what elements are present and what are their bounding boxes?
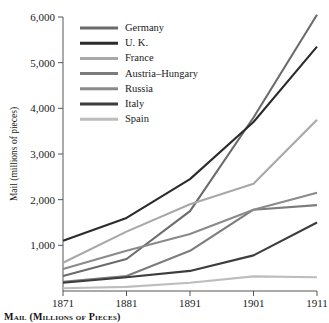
series-line-italy: [63, 223, 317, 283]
chart-figure: 1,0002,0003,0004,0005,0006,0001871188118…: [0, 0, 329, 323]
x-tick-label: 1871: [52, 297, 74, 309]
x-tick-label: 1911: [306, 297, 328, 309]
series-line-germany: [63, 15, 317, 276]
legend-label: Russia: [125, 83, 153, 94]
figure-caption: Mail (Millions of Pieces): [4, 311, 324, 322]
y-axis-title: Mail (millions of pieces): [9, 107, 20, 201]
legend-label: Austria–Hungary: [125, 68, 199, 79]
y-tick-label: 4,000: [30, 102, 55, 114]
legend-label: France: [125, 52, 154, 63]
y-tick-label: 6,000: [30, 11, 55, 23]
x-tick-label: 1891: [179, 297, 201, 309]
x-tick-label: 1881: [116, 297, 138, 309]
x-tick-label: 1901: [243, 297, 265, 309]
y-tick-label: 3,000: [30, 148, 55, 160]
legend-label: Germany: [125, 22, 165, 33]
legend-label: U. K.: [125, 37, 148, 48]
y-tick-label: 5,000: [30, 57, 55, 69]
legend-label: Italy: [125, 98, 145, 109]
line-chart: 1,0002,0003,0004,0005,0006,0001871188118…: [0, 0, 329, 323]
y-tick-label: 2,000: [30, 194, 55, 206]
y-tick-label: 1,000: [30, 239, 55, 251]
legend-label: Spain: [125, 113, 150, 124]
